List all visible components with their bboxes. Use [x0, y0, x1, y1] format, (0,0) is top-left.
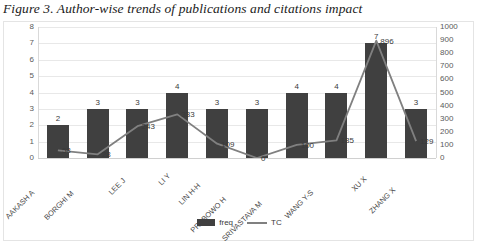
right-axis-tick-label: 900: [440, 36, 470, 44]
legend-item[interactable]: TC: [247, 218, 282, 227]
right-axis-tick-label: 500: [440, 89, 470, 97]
right-axis-tick-label: 700: [440, 62, 470, 70]
tc-value-label: 58: [62, 146, 71, 155]
right-axis-tick-label: 400: [440, 102, 470, 110]
right-axis-tick-label: 800: [440, 49, 470, 57]
right-axis-tick-label: 600: [440, 75, 470, 83]
gridline: [38, 158, 436, 159]
right-axis-tick-label: 1000: [440, 23, 470, 31]
legend-line-swatch-icon: [247, 222, 267, 224]
figure-caption: Figure 3. Author-wise trends of publicat…: [3, 1, 362, 17]
legend-label: TC: [271, 218, 282, 227]
tc-value-label: 28: [102, 150, 111, 159]
tc-value-label: 333: [181, 110, 194, 119]
left-axis-tick-label: 6: [8, 56, 34, 64]
tc-value-label: 129: [420, 137, 433, 146]
tc-value-label: 100: [301, 141, 314, 150]
x-axis-category-label: LI Y: [157, 171, 173, 187]
line-series-tc: 58282433331090100135896129: [38, 27, 436, 158]
tc-value-label: 896: [380, 37, 393, 46]
left-axis-tick-label: 3: [8, 105, 34, 113]
x-axis-category-label: LIN H-H: [177, 181, 203, 207]
tc-line-path: [38, 27, 436, 158]
legend-bar-swatch-icon: [197, 219, 215, 226]
x-axis-category-label: XU X: [350, 174, 369, 193]
left-axis-tick-label: 4: [8, 89, 34, 97]
tc-value-label: 109: [221, 140, 234, 149]
legend-label: freq: [219, 218, 233, 227]
right-axis-tick-label: 200: [440, 128, 470, 136]
right-axis-tick-label: 300: [440, 115, 470, 123]
figure-container: Figure 3. Author-wise trends of publicat…: [0, 0, 479, 244]
left-axis-tick-label: 0: [8, 154, 34, 162]
right-axis-tick-label: 100: [440, 141, 470, 149]
x-axis-category-labels: AAKASH ABORGHI MLEE JLI YLIN H-HPRABOWO …: [38, 160, 436, 205]
tc-value-label: 243: [142, 122, 155, 131]
left-axis-tick-label: 1: [8, 138, 34, 146]
left-axis-tick-label: 2: [8, 121, 34, 129]
legend-item[interactable]: freq: [197, 218, 233, 227]
right-axis-line: [436, 27, 437, 158]
chart-legend: freqTC: [0, 218, 479, 227]
tc-value-label: 135: [341, 136, 354, 145]
left-axis-tick-label: 7: [8, 39, 34, 47]
right-axis-tick-label: 0: [440, 154, 470, 162]
left-axis-tick-label: 8: [8, 23, 34, 31]
left-axis-tick-label: 5: [8, 72, 34, 80]
x-axis-category-label: LEE J: [107, 176, 128, 197]
